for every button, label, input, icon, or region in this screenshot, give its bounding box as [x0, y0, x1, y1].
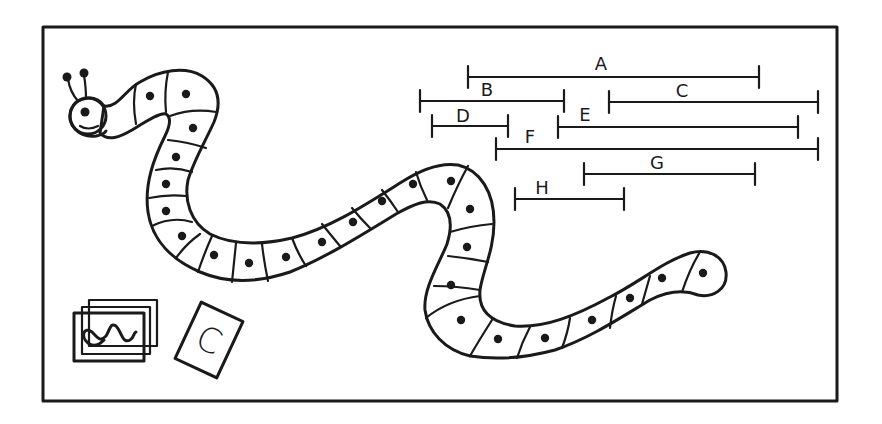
snake-eye-icon [81, 108, 90, 117]
antenna-left [68, 79, 78, 101]
space-dot-icon [541, 334, 549, 342]
space-dot-icon [146, 92, 154, 100]
segment-c: C [609, 80, 818, 113]
segment-label: D [456, 105, 470, 126]
wavy-line-icon [84, 325, 136, 345]
segment-h: H [515, 177, 624, 210]
space-dot-icon [182, 90, 190, 98]
segment-d: D [432, 105, 508, 137]
segment-e: E [558, 104, 798, 138]
segment-label: A [595, 53, 608, 74]
card-stack[interactable] [74, 300, 157, 361]
space-dividers [134, 72, 700, 358]
space-dot-icon [466, 205, 474, 213]
space-dot-icon [457, 316, 465, 324]
space-dot-icon [172, 153, 180, 161]
space-dot-icon [658, 274, 666, 282]
antenna-ball-right-icon [80, 69, 89, 78]
antenna-right [84, 75, 86, 98]
measurement-segments: ABCDEFGH [420, 53, 818, 210]
space-dot-icon [178, 232, 186, 240]
segment-label: E [579, 104, 590, 125]
space-dot-icon [349, 218, 357, 226]
space-dot-icon [162, 207, 170, 215]
space-dot-icon [588, 316, 596, 324]
segment-label: C [676, 80, 689, 101]
segment-g: G [584, 152, 755, 185]
segment-label: B [481, 79, 493, 100]
space-dot-icon [626, 294, 634, 302]
space-dot-icon [378, 197, 386, 205]
card-letter-c[interactable]: C [175, 302, 243, 378]
space-dot-icon [318, 238, 326, 246]
space-dot-icon [162, 180, 170, 188]
segment-label: H [535, 177, 549, 198]
segment-b: B [420, 79, 564, 112]
space-dot-icon [463, 243, 471, 251]
antenna-ball-left-icon [63, 73, 72, 82]
board-frame [43, 27, 837, 401]
segment-label: F [525, 126, 535, 147]
space-dot-icon [189, 124, 197, 132]
space-dot-icon [447, 177, 455, 185]
segment-label: G [650, 152, 664, 173]
space-dot-icon [494, 335, 502, 343]
space-dot-icon [409, 180, 417, 188]
space-dot-icon [210, 251, 218, 259]
board-illustration: ABCDEFGH C [0, 0, 882, 424]
space-dot-icon [245, 259, 253, 267]
snake-smile [80, 126, 98, 129]
segment-a: A [468, 53, 759, 88]
space-dot-icon [699, 269, 707, 277]
space-dot-icon [282, 253, 290, 261]
snake [63, 69, 727, 359]
card-letter: C [190, 317, 228, 363]
space-dot-icon [447, 281, 455, 289]
